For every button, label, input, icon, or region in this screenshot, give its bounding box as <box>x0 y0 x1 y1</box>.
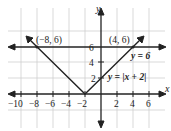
x-tick-6: 6 <box>146 99 151 109</box>
line-y-equals-6 <box>8 44 166 50</box>
x-tick--10: −10 <box>8 99 23 109</box>
intersection-point-left <box>36 46 39 49</box>
line-label: y = 6 <box>130 51 150 61</box>
x-tick--8: −8 <box>29 99 39 109</box>
grid <box>8 8 165 128</box>
x-tick--4: −4 <box>61 99 71 109</box>
y-tick-4: 4 <box>89 58 94 68</box>
y-axis-title: y <box>95 3 101 14</box>
abs-label: y = |x + 2| <box>107 72 146 82</box>
point-label-right: (4, 6) <box>109 35 130 46</box>
x-axis-title: x <box>164 83 170 94</box>
x-tick-4: 4 <box>130 99 135 109</box>
y-tick-2: 2 <box>91 74 96 84</box>
y-tick-6: 6 <box>89 43 94 53</box>
x-tick--6: −6 <box>45 99 55 109</box>
point-label-left: (−8, 6) <box>36 35 62 46</box>
graph: x y x (−8, 6) (4, 6) y = 6 y = |x + 2| 6… <box>0 0 171 131</box>
intersection-point-right <box>132 46 135 49</box>
x-tick-2: 2 <box>114 99 119 109</box>
x-tick--2: −2 <box>77 99 87 109</box>
